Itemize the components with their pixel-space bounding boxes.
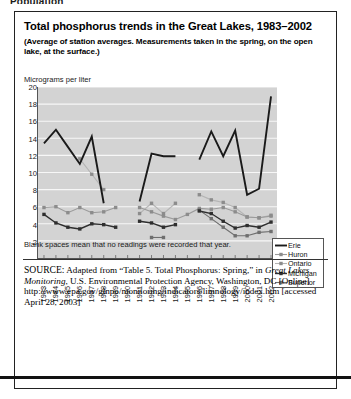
section-divider (23, 259, 328, 260)
y-tick-4: 4 (19, 220, 37, 229)
y-tick-10: 10 (19, 169, 37, 178)
y-tick-12: 12 (19, 151, 37, 160)
series-huron (42, 205, 272, 221)
y-tick-6: 6 (19, 203, 37, 212)
figure-subtitle: (Average of station averages. Measuremen… (24, 37, 320, 56)
y-tick-14: 14 (19, 134, 37, 143)
series-erie (44, 96, 271, 203)
cropped-page-header: Population (10, 0, 64, 4)
plot-area (37, 87, 277, 259)
legend-label: Erie (288, 241, 301, 250)
legend-item-erie: Erie (274, 241, 322, 250)
source-label: SOURCE: (24, 264, 65, 275)
figure-screenshot: Population Total phosphorus trends in th… (0, 0, 351, 399)
legend-item-huron: Huron (274, 250, 322, 259)
source-text-part2: , U.S. Environmental Protection Agency, … (24, 276, 316, 307)
figure-box: Total phosphorus trends in the Great Lak… (14, 11, 337, 389)
legend-swatch-huron-icon (274, 250, 288, 259)
source-text-part1: Adapted from “Table 5. Total Phosphorus:… (65, 265, 265, 275)
figure-title: Total phosphorus trends in the Great Lak… (24, 20, 324, 33)
y-tick-8: 8 (19, 186, 37, 195)
line-chart-svg (38, 87, 277, 258)
chart-note: Blank spaces mean that no readings were … (24, 240, 231, 249)
y-tick-20: 20 (19, 83, 37, 92)
source-citation: SOURCE: Adapted from “Table 5. Total Pho… (24, 265, 326, 307)
series-michigan (42, 209, 272, 230)
page-bottom-rule (0, 376, 351, 379)
y-tick-16: 16 (19, 117, 37, 126)
legend-swatch-erie-icon (274, 241, 288, 250)
y-tick-18: 18 (19, 100, 37, 109)
legend-label: Huron (288, 250, 308, 259)
